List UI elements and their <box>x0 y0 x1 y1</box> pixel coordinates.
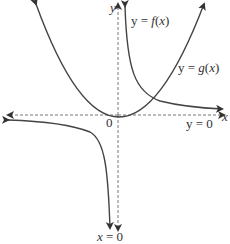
x-axis-label: x <box>221 109 228 124</box>
y-axis-label: y <box>108 0 116 15</box>
curve-f-left-branch <box>8 120 110 228</box>
f-label: y = f(x) <box>131 13 169 28</box>
origin-label: 0 <box>106 115 113 130</box>
vertical-asymptote-label: x = 0 <box>96 229 123 244</box>
graph-canvas: y x 0 y = f(x) y = g(x) y = 0 x = 0 <box>0 0 230 244</box>
g-label: y = g(x) <box>178 60 219 75</box>
horizontal-asymptote-label: y = 0 <box>186 116 213 131</box>
